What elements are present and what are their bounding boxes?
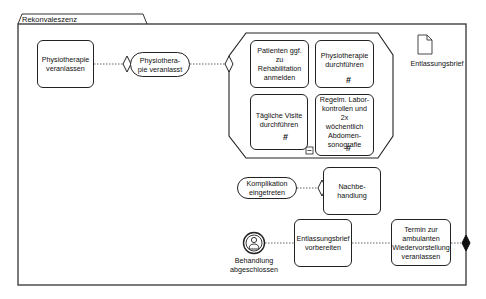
task-patient-rehabilitation[interactable]: Patienten ggf. zu Rehabilitation anmelde… — [250, 40, 309, 88]
task-entlassungsbrief-vorbereiten[interactable]: Entlassungsbrief vorbereiten — [294, 219, 352, 267]
task-nachbehandlung[interactable]: Nachbe- handlung — [323, 167, 381, 215]
frame-title: Rekonvaleszenz — [22, 15, 77, 24]
loop-marker-icon: # — [346, 76, 351, 85]
loop-marker-icon: # — [346, 144, 351, 153]
event-physiotherapie-veranlasst[interactable]: Physiothera- pie veranlasst — [130, 52, 190, 77]
task-termin-wiedervorstellung[interactable]: Termin zur ambulanten Wiedervorstellung … — [391, 219, 451, 266]
end-event-label: Behandlung abgeschlossen — [224, 256, 284, 274]
end-event-icon — [244, 233, 265, 254]
task-physiotherapie-veranlassen[interactable]: Physiotherapie veranlassen — [37, 40, 94, 88]
task-taegliche-visite[interactable]: Tägliche Visite durchführen — [250, 94, 308, 150]
document-icon — [418, 35, 432, 54]
event-komplikation-eingetreten[interactable]: Komplikation eingetreten — [237, 177, 297, 199]
task-physiotherapie-durchfuehren[interactable]: Physiotherapie durchführen — [315, 40, 374, 88]
task-laborkontrollen[interactable]: Regelm. Labor- kontrollen und 2x wöchent… — [315, 94, 374, 156]
connector-diamond-filled — [462, 235, 470, 251]
loop-marker-icon: # — [283, 133, 288, 142]
collapse-marker-icon[interactable] — [306, 147, 313, 154]
document-label: Entlassungsbrief — [402, 59, 472, 68]
